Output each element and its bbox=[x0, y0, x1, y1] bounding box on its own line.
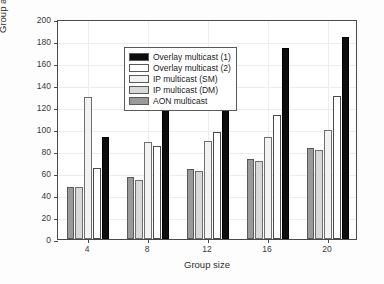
bar-ipsm-group-4 bbox=[84, 97, 92, 239]
x-tick-label: 16 bbox=[252, 244, 282, 254]
y-tick-mark bbox=[54, 153, 58, 154]
y-tick-label: 40 bbox=[21, 192, 51, 200]
bar-aon-group-16 bbox=[247, 159, 255, 239]
y-tick-label: 100 bbox=[21, 126, 51, 134]
bar-aon-group-4 bbox=[67, 187, 75, 239]
legend-item: IP multicast (DM) bbox=[129, 85, 231, 95]
bar-overlay2-group-16 bbox=[273, 115, 281, 239]
gridline bbox=[58, 131, 356, 132]
bar-aon-group-20 bbox=[307, 148, 315, 239]
y-tick-label: 180 bbox=[21, 38, 51, 46]
bar-aon-group-12 bbox=[187, 169, 195, 239]
legend-swatch-aon-multicast bbox=[129, 97, 149, 105]
bar-ipdm-group-8 bbox=[135, 180, 143, 239]
y-tick-label: 0 bbox=[21, 236, 51, 244]
chart-legend: Overlay multicast (1) Overlay multicast … bbox=[124, 47, 237, 111]
y-tick-label: 80 bbox=[21, 148, 51, 156]
y-tick-mark bbox=[54, 65, 58, 66]
y-tick-label: 20 bbox=[21, 214, 51, 222]
y-tick-mark bbox=[54, 109, 58, 110]
bar-overlay1-group-4 bbox=[102, 137, 110, 239]
legend-item: AON multicast bbox=[129, 96, 231, 106]
y-tick-mark bbox=[54, 219, 58, 220]
y-tick-mark bbox=[54, 131, 58, 132]
legend-item: Overlay multicast (1) bbox=[129, 52, 231, 62]
bar-ipdm-group-20 bbox=[315, 150, 323, 239]
y-tick-mark bbox=[54, 197, 58, 198]
x-axis-label: Group size bbox=[57, 259, 357, 270]
x-tick-mark bbox=[88, 239, 89, 243]
x-tick-mark bbox=[268, 239, 269, 243]
legend-label: IP multicast (DM) bbox=[153, 86, 218, 95]
bar-overlay2-group-4 bbox=[93, 168, 101, 240]
legend-swatch-overlay-multicast-1 bbox=[129, 53, 149, 61]
legend-item: IP multicast (SM) bbox=[129, 74, 231, 84]
bar-ipsm-group-8 bbox=[144, 142, 152, 239]
x-tick-label: 20 bbox=[312, 244, 342, 254]
bar-overlay1-group-8 bbox=[162, 97, 170, 239]
legend-swatch-ip-multicast-dm bbox=[129, 86, 149, 94]
legend-label: Overlay multicast (2) bbox=[153, 64, 231, 73]
chart-figure: Group average delay (GAD) (ms) Overlay m… bbox=[0, 0, 384, 284]
x-tick-mark bbox=[208, 239, 209, 243]
x-tick-label: 8 bbox=[132, 244, 162, 254]
y-tick-label: 140 bbox=[21, 82, 51, 90]
bar-overlay2-group-20 bbox=[333, 96, 341, 239]
x-tick-label: 12 bbox=[192, 244, 222, 254]
y-tick-label: 160 bbox=[21, 60, 51, 68]
y-tick-label: 60 bbox=[21, 170, 51, 178]
bar-overlay1-group-16 bbox=[282, 48, 290, 239]
bar-aon-group-8 bbox=[127, 177, 135, 239]
x-tick-label: 4 bbox=[72, 244, 102, 254]
x-tick-mark bbox=[148, 239, 149, 243]
bar-overlay2-group-8 bbox=[153, 146, 161, 240]
gridline bbox=[58, 43, 356, 44]
bar-overlay2-group-12 bbox=[213, 132, 221, 239]
bar-ipsm-group-20 bbox=[324, 130, 332, 239]
bar-overlay1-group-20 bbox=[342, 37, 350, 239]
bar-ipsm-group-16 bbox=[264, 137, 272, 239]
y-tick-label: 200 bbox=[21, 16, 51, 24]
legend-label: IP multicast (SM) bbox=[153, 75, 218, 84]
legend-label: Overlay multicast (1) bbox=[153, 53, 231, 62]
bar-ipdm-group-4 bbox=[75, 187, 83, 239]
y-tick-mark bbox=[54, 43, 58, 44]
bar-ipdm-group-12 bbox=[195, 171, 203, 239]
y-axis-label: Group average delay (GAD) (ms) bbox=[0, 0, 8, 48]
bar-ipsm-group-12 bbox=[204, 141, 212, 239]
y-tick-mark bbox=[54, 241, 58, 242]
y-tick-mark bbox=[54, 87, 58, 88]
y-tick-mark bbox=[54, 21, 58, 22]
legend-swatch-overlay-multicast-2 bbox=[129, 64, 149, 72]
y-tick-label: 120 bbox=[21, 104, 51, 112]
y-tick-mark bbox=[54, 175, 58, 176]
legend-swatch-ip-multicast-sm bbox=[129, 75, 149, 83]
plot-area: Overlay multicast (1) Overlay multicast … bbox=[57, 20, 357, 240]
legend-item: Overlay multicast (2) bbox=[129, 63, 231, 73]
x-tick-mark bbox=[328, 239, 329, 243]
bar-ipdm-group-16 bbox=[255, 161, 263, 239]
legend-label: AON multicast bbox=[153, 97, 207, 106]
